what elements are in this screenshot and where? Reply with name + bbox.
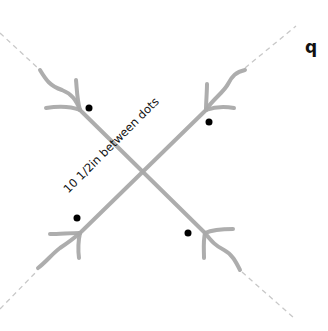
dot-top-left: [86, 105, 93, 112]
dashed-guide-bottom-left: [0, 270, 38, 309]
crossed-stalks-diagram: 10 1/2in between dots q: [0, 0, 328, 331]
dot-top-right: [206, 119, 213, 126]
stalk-b-branch-right: [206, 107, 234, 110]
dot-bottom-right: [185, 230, 192, 237]
stalk-b-curl-bottom: [38, 233, 80, 268]
stalk-b-curl-top: [206, 70, 245, 110]
dashed-guide-bottom-right: [242, 272, 294, 318]
stalk-a-branch-down: [204, 233, 205, 258]
stalk-a-curl-top: [40, 70, 80, 110]
dashed-guide-top-left: [0, 33, 40, 70]
dot-bottom-left: [74, 215, 81, 222]
corner-letter: q: [305, 37, 317, 57]
stalk-b-branch-up: [206, 84, 207, 110]
stalk-a-branch-right: [205, 229, 233, 233]
stalk-a-branch-left: [46, 107, 80, 110]
dashed-guide-top-right: [245, 26, 296, 68]
stalk-a-curl-bottom: [205, 233, 240, 270]
stalk-b-branch-left: [50, 233, 80, 234]
